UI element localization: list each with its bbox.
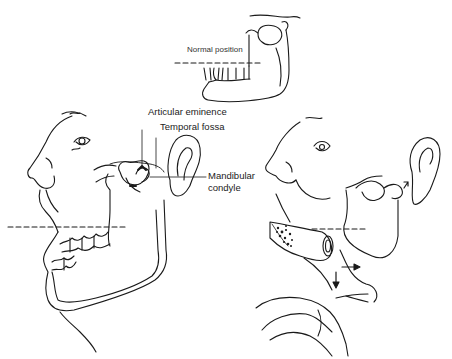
label-mandibular: Mandibular xyxy=(208,170,255,181)
label-temporal-fossa: Temporal fossa xyxy=(160,121,224,132)
reduction-maneuver-figure xyxy=(256,117,440,356)
normal-mandible-figure xyxy=(175,15,300,102)
label-normal-position: Normal position xyxy=(187,44,243,55)
label-condyle: condyle xyxy=(208,182,241,193)
dislocated-jaw-figure xyxy=(8,112,206,352)
label-articular-eminence: Articular eminence xyxy=(148,106,227,117)
